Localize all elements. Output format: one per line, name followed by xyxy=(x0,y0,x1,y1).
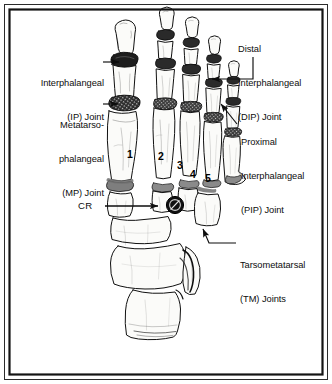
label-tm-line2: (TM) Joints xyxy=(240,294,332,305)
digit-number-2: 2 xyxy=(158,150,164,162)
label-ip-line1: Interphalangeal xyxy=(20,78,104,89)
label-pip-line3: (PIP) Joint xyxy=(241,205,332,216)
illustration-stage: Interphalangeal (IP) Joint Metatarso- ph… xyxy=(0,0,332,384)
label-mp-line1: Metatarso- xyxy=(20,120,104,131)
label-dip-line2: Interphalangeal xyxy=(238,78,330,89)
label-mp-line2: phalangeal xyxy=(20,154,104,165)
digit-number-5: 5 xyxy=(205,172,211,184)
digit-number-1: 1 xyxy=(127,148,133,160)
label-dip-line1: Distal xyxy=(238,44,330,55)
label-mp-line3: (MP) Joint xyxy=(20,188,104,199)
label-pip-line1: Proximal xyxy=(241,137,332,148)
digit-number-3: 3 xyxy=(177,159,183,171)
label-cr: CR xyxy=(78,200,92,211)
label-pip-joint: Proximal Interphalangeal (PIP) Joint xyxy=(241,114,332,239)
label-tm-line1: Tarsometatarsal xyxy=(240,260,332,271)
digit-number-4: 4 xyxy=(190,168,196,180)
label-tm-joints: Tarsometatarsal (TM) Joints xyxy=(240,237,332,328)
figure-panel: Interphalangeal (IP) Joint Metatarso- ph… xyxy=(0,0,332,384)
label-pip-line2: Interphalangeal xyxy=(241,171,332,182)
